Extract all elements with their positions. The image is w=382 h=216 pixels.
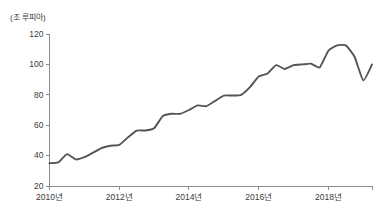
x-axis-tick-group: 2010년2012년2014년2016년2018년 xyxy=(36,186,372,202)
y-axis-tick-label: 20 xyxy=(34,181,44,191)
y-axis-tick-label: 100 xyxy=(29,59,43,69)
x-axis-tick-label: 2016년 xyxy=(245,192,272,202)
x-axis-tick-label: 2012년 xyxy=(106,192,133,202)
x-axis-tick-label: 2018년 xyxy=(315,192,342,202)
y-axis-tick-label: 80 xyxy=(34,90,44,100)
data-series-line xyxy=(50,45,373,163)
y-axis-tick-label: 40 xyxy=(34,150,44,160)
x-axis-tick-label: 2014년 xyxy=(175,192,202,202)
y-axis-tick-group: 12010080604020 xyxy=(29,29,49,191)
chart-container: (조 루피아) 12010080604020 2010년2012년2014년20… xyxy=(0,0,382,216)
line-chart-plot: 12010080604020 2010년2012년2014년2016년2018년 xyxy=(0,0,382,216)
x-axis-tick-label: 2010년 xyxy=(36,192,63,202)
y-axis-tick-label: 120 xyxy=(29,29,43,39)
y-axis-tick-label: 60 xyxy=(34,120,44,130)
